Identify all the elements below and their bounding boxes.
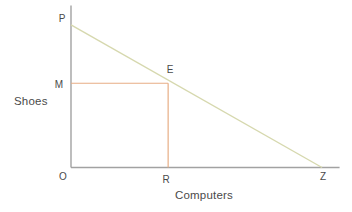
y-axis-title: Shoes <box>14 95 48 107</box>
point-label-P: P <box>59 13 66 24</box>
point-label-E: E <box>167 64 174 75</box>
economics-figure: PMEORZ Shoes Computers <box>0 0 352 212</box>
x-axis-title: Computers <box>158 189 250 201</box>
point-label-O: O <box>59 171 67 182</box>
point-label-Z: Z <box>320 171 326 182</box>
point-label-R: R <box>163 174 170 185</box>
series-budget-line <box>71 25 322 168</box>
budget-line-chart: PMEORZ <box>0 0 352 212</box>
point-label-M: M <box>55 79 63 90</box>
